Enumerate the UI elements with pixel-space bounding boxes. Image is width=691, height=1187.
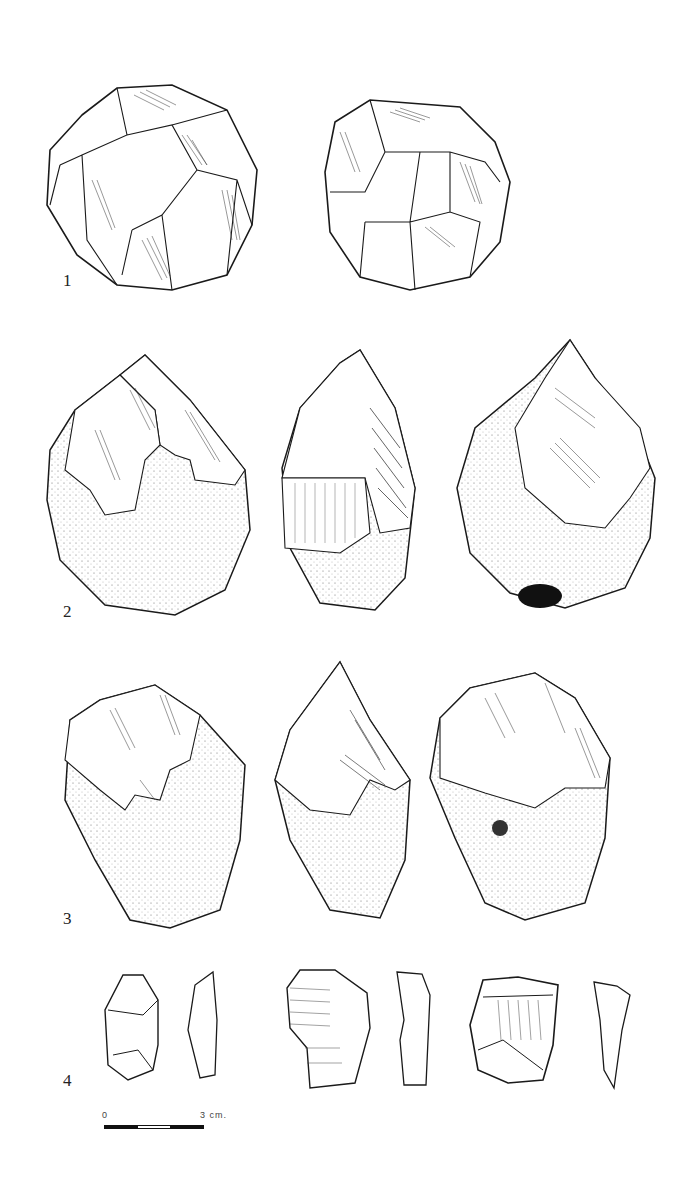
figure-4-flake-a xyxy=(103,970,163,1080)
scale-segment-white xyxy=(138,1126,171,1128)
scale-start-label: 0 xyxy=(102,1110,108,1120)
core-drawing-icon xyxy=(300,52,522,290)
flake-drawing-icon xyxy=(103,970,163,1080)
pebble-tool-drawing-icon xyxy=(270,660,415,918)
figure-4-flake-b xyxy=(285,968,375,1088)
scale-segment-black xyxy=(170,1126,203,1128)
figure-4-section-a xyxy=(185,970,220,1080)
figure-3-view-b xyxy=(270,660,415,918)
flake-section-icon xyxy=(592,980,632,1090)
scale-end-label: 3 cm. xyxy=(200,1110,227,1120)
figure-2-view-a xyxy=(45,350,250,615)
figure-3-view-a xyxy=(60,680,250,928)
pebble-tool-drawing-icon xyxy=(455,338,660,608)
flake-section-icon xyxy=(185,970,220,1080)
figure-4-flake-c xyxy=(468,975,563,1085)
pebble-tool-drawing-icon xyxy=(45,350,250,615)
figure-3-view-c xyxy=(425,668,615,920)
figure-1-label: 1 xyxy=(63,272,72,289)
figure-1-view-a xyxy=(22,40,260,290)
figure-2-label: 2 xyxy=(63,603,72,620)
pebble-tool-drawing-icon xyxy=(60,680,250,928)
figure-4-section-b xyxy=(392,970,432,1088)
scale-bar: 0 3 cm. xyxy=(102,1110,204,1140)
core-drawing-icon xyxy=(22,40,260,290)
flake-drawing-icon xyxy=(468,975,563,1085)
scale-segment-black xyxy=(105,1126,138,1128)
figure-3-label: 3 xyxy=(63,910,72,927)
pebble-tool-drawing-icon xyxy=(280,348,415,610)
figure-2-view-c xyxy=(455,338,660,608)
flake-drawing-icon xyxy=(285,968,375,1088)
figure-1-view-b xyxy=(300,52,522,290)
figure-4-label: 4 xyxy=(63,1072,72,1089)
lithic-illustration-plate: 1 2 xyxy=(0,0,691,1187)
flake-section-icon xyxy=(392,970,432,1088)
pebble-tool-drawing-icon xyxy=(425,668,615,920)
figure-2-view-b xyxy=(280,348,415,610)
scale-bar-graphic xyxy=(104,1125,204,1129)
figure-4-section-c xyxy=(592,980,632,1090)
